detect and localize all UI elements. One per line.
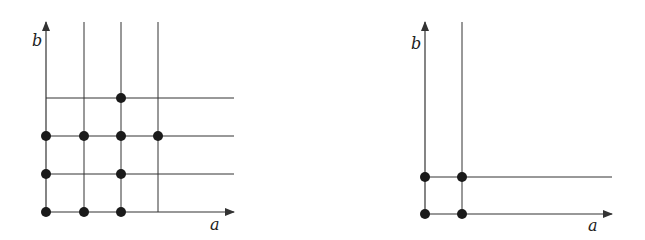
lattice-point [420,172,430,182]
left-lattice-diagram [41,22,234,217]
lattice-point [457,209,467,219]
lattice-point [79,207,89,217]
lattice-point [420,209,430,219]
lattice-point [79,131,89,141]
lattice-point [41,207,51,217]
lattice-point [457,172,467,182]
right-a-axis-label: a [588,216,598,235]
lattice-point [116,207,126,217]
lattice-point [116,93,126,103]
lattice-point [41,169,51,179]
lattice-point [116,169,126,179]
right-lattice-diagram [420,22,612,219]
right-b-axis-label: b [411,34,421,53]
lattice-point [41,131,51,141]
lattice-point [116,131,126,141]
diagram-canvas: b a b a [0,0,645,240]
left-a-axis-label: a [210,215,220,234]
lattice-point [153,131,163,141]
left-b-axis-label: b [32,31,42,50]
